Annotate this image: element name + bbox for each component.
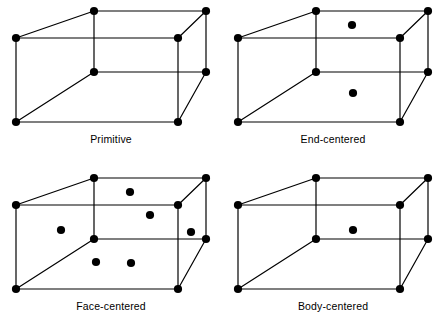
unit-cell-body-centered: Body-centered <box>222 167 444 334</box>
unit-cell-face-centered: Face-centered <box>0 167 222 334</box>
corner-lattice-point-back-bottom-right <box>202 68 210 76</box>
lattice-points <box>234 174 432 293</box>
corner-lattice-point-front-bottom-right <box>174 285 182 293</box>
corner-lattice-point-back-bottom-left <box>312 68 320 76</box>
cell-edge <box>400 11 428 38</box>
corner-lattice-point-front-top-right <box>396 34 404 42</box>
corner-lattice-point-back-bottom-left <box>312 235 320 243</box>
corner-lattice-point-back-top-left <box>312 7 320 15</box>
corner-lattice-point-front-top-left <box>234 201 242 209</box>
corner-lattice-point-back-top-right <box>202 174 210 182</box>
lattice-point-bottom-face-center <box>127 259 135 267</box>
corner-lattice-point-front-bottom-right <box>396 285 404 293</box>
lattice-point-right-face-center <box>187 228 195 236</box>
corner-lattice-point-front-bottom-left <box>12 118 20 126</box>
cell-edge <box>238 72 316 122</box>
corner-lattice-point-back-bottom-right <box>202 235 210 243</box>
cell-edge <box>400 178 428 205</box>
corner-lattice-point-front-bottom-left <box>12 285 20 293</box>
corner-lattice-point-front-top-left <box>234 34 242 42</box>
lattice-point-back-face-center <box>146 211 154 219</box>
unit-cell-drawing-body-centered <box>222 167 444 307</box>
cell-edge <box>238 11 316 38</box>
lattice-point-top-face-center <box>126 188 134 196</box>
cell-edge <box>178 239 206 289</box>
lattice-point-bottom-face-center <box>349 89 357 97</box>
corner-lattice-point-back-top-left <box>312 174 320 182</box>
corner-lattice-point-back-top-right <box>424 7 432 15</box>
cell-edge <box>16 239 94 289</box>
lattice-points <box>12 7 210 126</box>
cell-edge <box>400 72 428 122</box>
unit-cell-label-end-centered: End-centered <box>222 133 444 145</box>
cell-edges <box>238 178 428 289</box>
unit-cell-label-primitive: Primitive <box>0 133 222 145</box>
corner-lattice-point-front-top-left <box>12 201 20 209</box>
corner-lattice-point-back-top-right <box>424 174 432 182</box>
corner-lattice-point-back-top-left <box>90 7 98 15</box>
cell-edges <box>16 178 206 289</box>
cell-edge <box>178 178 206 205</box>
corner-lattice-point-front-bottom-left <box>234 285 242 293</box>
corner-lattice-point-back-bottom-right <box>424 235 432 243</box>
corner-lattice-point-front-bottom-right <box>396 118 404 126</box>
cell-edge <box>238 178 316 205</box>
lattice-points <box>12 174 210 293</box>
corner-lattice-point-back-bottom-left <box>90 68 98 76</box>
corner-lattice-point-front-top-left <box>12 34 20 42</box>
corner-lattice-point-front-bottom-left <box>234 118 242 126</box>
unit-cell-drawing-face-centered <box>0 167 222 307</box>
cell-edge <box>178 11 206 38</box>
lattice-point-body-center <box>349 226 357 234</box>
unit-cell-drawing-primitive <box>0 0 222 140</box>
cell-edges <box>238 11 428 122</box>
corner-lattice-point-front-top-right <box>174 201 182 209</box>
unit-cell-label-body-centered: Body-centered <box>222 300 444 312</box>
corner-lattice-point-front-top-right <box>396 201 404 209</box>
cell-edge <box>238 239 316 289</box>
corner-lattice-point-front-bottom-right <box>174 118 182 126</box>
cell-edge <box>16 178 94 205</box>
unit-cell-primitive: Primitive <box>0 0 222 167</box>
cell-edges <box>16 11 206 122</box>
lattice-point-top-face-center <box>348 21 356 29</box>
cell-edge <box>16 11 94 38</box>
unit-cell-end-centered: End-centered <box>222 0 444 167</box>
unit-cell-drawing-end-centered <box>222 0 444 140</box>
cell-edge <box>400 239 428 289</box>
cell-edge <box>178 72 206 122</box>
bravais-lattice-figure: PrimitiveEnd-centeredFace-centeredBody-c… <box>0 0 445 335</box>
lattice-points <box>234 7 432 126</box>
corner-lattice-point-back-top-right <box>202 7 210 15</box>
unit-cell-label-face-centered: Face-centered <box>0 300 222 312</box>
lattice-point-left-face-center <box>57 226 65 234</box>
corner-lattice-point-front-top-right <box>174 34 182 42</box>
corner-lattice-point-back-bottom-right <box>424 68 432 76</box>
lattice-point-front-face-center <box>92 258 100 266</box>
corner-lattice-point-back-top-left <box>90 174 98 182</box>
corner-lattice-point-back-bottom-left <box>90 235 98 243</box>
cell-edge <box>16 72 94 122</box>
